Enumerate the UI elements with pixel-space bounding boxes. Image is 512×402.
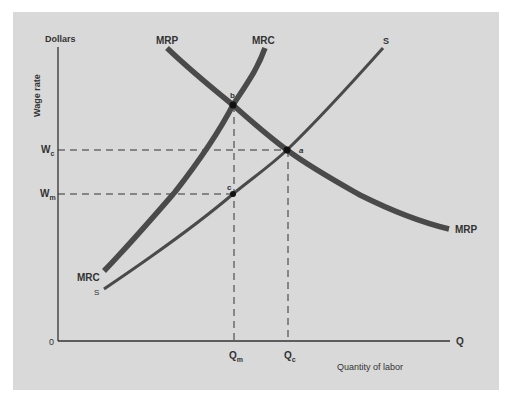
point-a-marker <box>284 147 291 154</box>
mrp-curve <box>167 48 449 229</box>
point-b-marker <box>230 102 237 109</box>
origin-label: 0 <box>49 337 54 347</box>
mrp-right-label: MRP <box>455 224 478 235</box>
mrp-top-label: MRP <box>156 35 179 46</box>
quantity-of-labor-label: Quantity of labor <box>337 362 403 372</box>
qm-label: Qm <box>229 350 243 363</box>
point-c-label: c <box>227 183 232 192</box>
wm-label: Wm <box>40 188 56 201</box>
mrc-top-label: MRC <box>252 35 275 46</box>
wage-rate-label: Wage rate <box>32 74 42 117</box>
mrc-left-label: MRC <box>77 272 100 283</box>
dollars-label: Dollars <box>45 34 76 44</box>
qc-label: Qc <box>284 350 296 363</box>
s-left-label: S <box>94 288 99 297</box>
point-a-label: a <box>299 146 304 155</box>
mrc-curve <box>104 48 265 271</box>
s-top-label: S <box>383 36 389 46</box>
wc-label: Wc <box>41 144 54 157</box>
point-b-label: b <box>230 91 235 100</box>
monopsony-chart: Dollars Wage rate Quantity of labor Q 0 … <box>0 0 512 402</box>
q-axis-label: Q <box>456 336 464 347</box>
